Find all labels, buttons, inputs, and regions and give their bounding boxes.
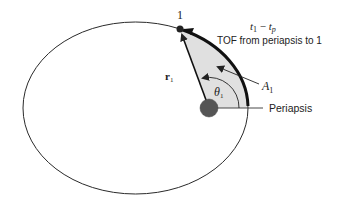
time-expression-label: t1 − tp <box>250 20 276 34</box>
point-1-marker <box>177 26 184 33</box>
periapsis-label: Periapsis <box>269 102 312 114</box>
radius-r1-label: r1 <box>165 70 174 84</box>
tof-description-label: TOF from periapsis to 1 <box>217 35 322 46</box>
area-A1-label: A1 <box>261 79 273 95</box>
point-1-label: 1 <box>177 8 183 22</box>
focus-body <box>200 99 218 117</box>
orbit-diagram: 1 t1 − tp TOF from periapsis to 1 A1 r1 … <box>0 0 338 203</box>
